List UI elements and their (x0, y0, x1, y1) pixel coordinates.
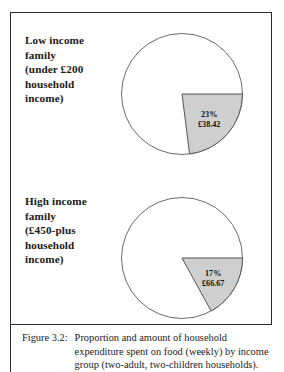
pie-slice-percent-label: 17% (205, 269, 221, 278)
pie-slice-amount-label: £38.42 (198, 120, 221, 129)
panel-low-income: Low income family (under £200 household … (11, 13, 273, 173)
pie-chart-low-income-svg: 23% £38.42 (119, 31, 247, 159)
figure-container: Low income family (under £200 household … (0, 0, 284, 372)
figure-caption-body: Proportion and amount of household expen… (75, 331, 280, 372)
pie-chart-high-income: 17% £66.67 (119, 195, 247, 323)
pie-slice-amount-label: £66.67 (202, 279, 225, 288)
panel-high-income-label: High income family (£450-plus household … (25, 194, 87, 267)
pie-chart-high-income-svg: 17% £66.67 (119, 195, 247, 323)
panel-low-income-label: Low income family (under £200 household … (25, 33, 84, 106)
pie-slice-percent-label: 23% (201, 110, 217, 119)
panel-high-income: High income family (£450-plus household … (11, 173, 273, 326)
pie-chart-low-income: 23% £38.42 (119, 31, 247, 159)
figure-caption-tag: Figure 3.2: (22, 331, 75, 345)
figure-frame: Low income family (under £200 household … (10, 12, 272, 325)
figure-caption: Figure 3.2: Proportion and amount of hou… (22, 331, 280, 372)
